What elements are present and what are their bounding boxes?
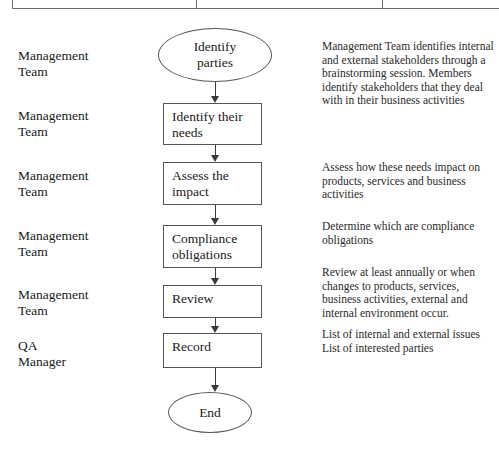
connector-line: [215, 368, 216, 386]
arrow-assess-to-compliance: [211, 205, 220, 225]
table-left-edge: [12, 0, 13, 9]
record[interactable]: Record: [163, 333, 262, 368]
actor-5: Management Team: [18, 287, 158, 319]
connector-line: [215, 205, 216, 219]
actor-4: Management Team: [18, 228, 158, 260]
arrowhead-icon: [211, 278, 219, 285]
review[interactable]: Review: [163, 285, 262, 318]
flowchart-page: Management TeamManagement TeamManagement…: [0, 0, 499, 449]
compliance-obligations[interactable]: Compliance obligations: [163, 225, 262, 268]
table-column-divider-1: [196, 0, 197, 9]
arrow-start-to-needs: [211, 82, 220, 103]
desc-assess-the-impact: Assess how these needs impact on product…: [322, 161, 498, 202]
desc-compliance-obligations: Determine which are compliance obligatio…: [322, 220, 498, 247]
assess-the-impact[interactable]: Assess the impact: [163, 162, 262, 205]
arrow-review-to-record: [211, 318, 220, 333]
arrowhead-icon: [211, 326, 219, 333]
table-column-divider-2: [382, 0, 383, 9]
actor-3: Management Team: [18, 168, 158, 200]
connector-line: [215, 82, 216, 97]
arrow-record-to-end: [211, 368, 220, 392]
arrowhead-icon: [211, 385, 219, 392]
arrowhead-icon: [211, 155, 219, 162]
table-top-rule: [12, 0, 499, 9]
arrowhead-icon: [211, 218, 219, 225]
desc-review: Review at least annually or when changes…: [322, 266, 498, 320]
actor-6: QA Manager: [18, 338, 158, 370]
desc-identify-parties: Management Team identifies internal and …: [322, 40, 498, 108]
identify-their-needs[interactable]: Identify their needs: [163, 103, 262, 145]
arrow-compliance-to-review: [211, 268, 220, 285]
actor-2: Management Team: [18, 108, 158, 140]
desc-record: List of internal and external issues Lis…: [322, 328, 498, 355]
end[interactable]: End: [168, 392, 252, 433]
arrowhead-icon: [211, 96, 219, 103]
start-identify-parties[interactable]: Identify parties: [158, 28, 272, 82]
arrow-needs-to-assess: [211, 145, 220, 162]
actor-1: Management Team: [18, 48, 158, 80]
